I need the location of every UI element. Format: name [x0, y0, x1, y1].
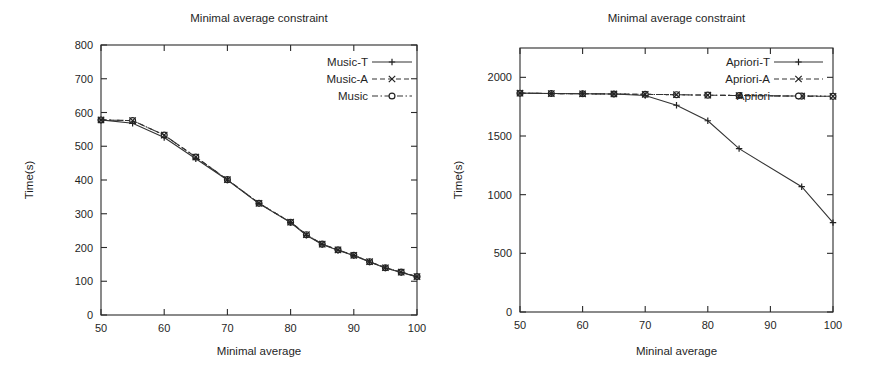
series-music	[98, 117, 420, 279]
x-tick-label: 80	[284, 322, 296, 334]
chart-panel-apriori: Minimal average constraint05001000150020…	[440, 0, 880, 374]
x-tick-label: 100	[408, 322, 426, 334]
x-tick-label: 90	[348, 322, 360, 334]
y-tick-label: 500	[494, 247, 512, 259]
y-axis-label: Time(s)	[23, 161, 35, 200]
y-tick-label: 400	[75, 174, 93, 186]
x-tick-label: 60	[158, 322, 170, 334]
legend-swatch-apriori-a	[774, 76, 823, 82]
legend-swatch-apriori	[774, 93, 823, 99]
y-tick-label: 800	[75, 39, 93, 51]
x-tick-label: 80	[702, 319, 714, 331]
plot-frame	[101, 45, 417, 315]
y-tick-label: 300	[75, 208, 93, 220]
y-tick-label: 500	[75, 140, 93, 152]
legend: Music-TMusic-AMusic	[326, 56, 412, 102]
legend-label-music-t: Music-T	[327, 56, 368, 68]
y-tick-label: 1500	[488, 130, 512, 142]
x-tick-label: 70	[221, 322, 233, 334]
plot-frame	[520, 48, 833, 312]
legend-swatch-apriori-t	[774, 59, 823, 65]
legend-label-music-a: Music-A	[326, 73, 368, 85]
x-axis-label: Minimal average	[217, 345, 301, 357]
x-tick-label: 100	[824, 319, 842, 331]
x-tick-label: 90	[764, 319, 776, 331]
chart-title: Minimal average constraint	[608, 12, 746, 24]
apriori-panel-svg: Minimal average constraint05001000150020…	[440, 0, 880, 374]
legend-swatch-music-t	[372, 59, 412, 65]
legend: Apriori-TApriori-AApriori	[725, 56, 823, 102]
music-panel-svg: Minimal average constraint01002003004005…	[0, 0, 440, 374]
two-panel-figure: Minimal average constraint01002003004005…	[0, 0, 880, 374]
y-tick-label: 100	[75, 275, 93, 287]
x-tick-label: 50	[95, 322, 107, 334]
legend-label-apriori-t: Apriori-T	[726, 56, 770, 68]
series-apriori-t	[517, 90, 836, 226]
y-tick-label: 200	[75, 242, 93, 254]
y-tick-label: 700	[75, 73, 93, 85]
legend-label-apriori-a: Apriori-A	[725, 73, 770, 85]
series-music-t	[98, 117, 420, 280]
y-tick-label: 2000	[488, 71, 512, 83]
series-music-a	[98, 117, 420, 280]
y-tick-label: 0	[506, 306, 512, 318]
chart-title: Minimal average constraint	[190, 12, 328, 24]
legend-swatch-music-a	[372, 76, 412, 82]
y-tick-label: 1000	[488, 189, 512, 201]
y-tick-label: 0	[87, 309, 93, 321]
legend-label-music: Music	[338, 90, 368, 102]
x-axis-label: Mininal average	[636, 345, 717, 357]
legend-swatch-music	[372, 93, 412, 99]
x-tick-label: 50	[514, 319, 526, 331]
y-tick-label: 600	[75, 107, 93, 119]
x-tick-label: 60	[576, 319, 588, 331]
y-axis-label: Time(s)	[452, 161, 464, 200]
legend-label-apriori: Apriori	[737, 90, 770, 102]
x-tick-label: 70	[639, 319, 651, 331]
chart-panel-music: Minimal average constraint01002003004005…	[0, 0, 440, 374]
